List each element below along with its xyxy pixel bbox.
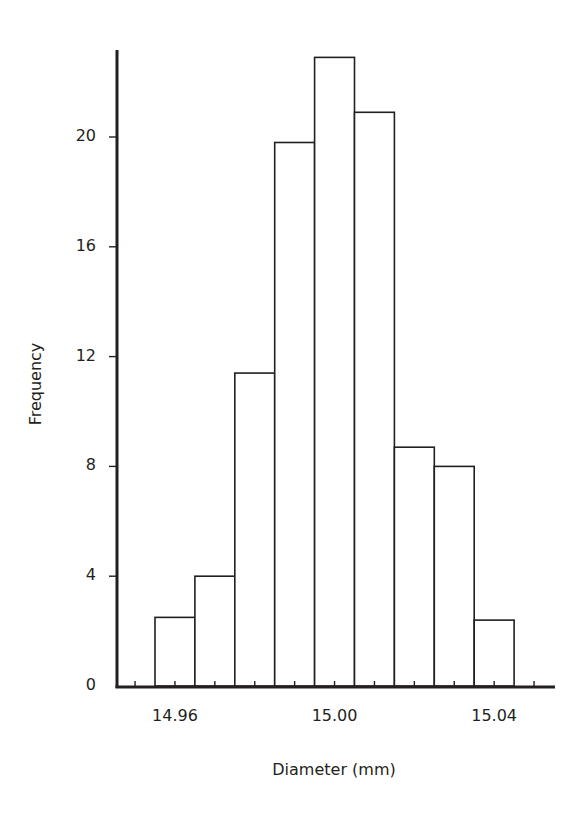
- histogram-bar: [474, 620, 514, 686]
- histogram-bar: [355, 112, 395, 686]
- histogram-bar: [155, 617, 195, 686]
- x-axis-label: Diameter (mm): [272, 760, 395, 779]
- y-tick-label: 0: [56, 675, 96, 694]
- histogram-bar: [195, 576, 235, 686]
- y-axis-label: Frequency: [26, 343, 45, 426]
- y-tick-label: 16: [56, 236, 96, 255]
- x-tick-label: 14.96: [135, 706, 215, 725]
- y-tick-label: 12: [56, 346, 96, 365]
- histogram-bar: [235, 373, 275, 686]
- histogram-bar: [394, 447, 434, 686]
- y-tick-label: 20: [56, 126, 96, 145]
- histogram-bar: [434, 466, 474, 686]
- histogram-bars: [155, 57, 514, 686]
- y-tick-label: 4: [56, 565, 96, 584]
- y-tick-label: 8: [56, 455, 96, 474]
- x-tick-label: 15.04: [454, 706, 534, 725]
- histogram-bar: [315, 57, 355, 686]
- x-tick-label: 15.00: [295, 706, 375, 725]
- histogram-bar: [275, 142, 315, 686]
